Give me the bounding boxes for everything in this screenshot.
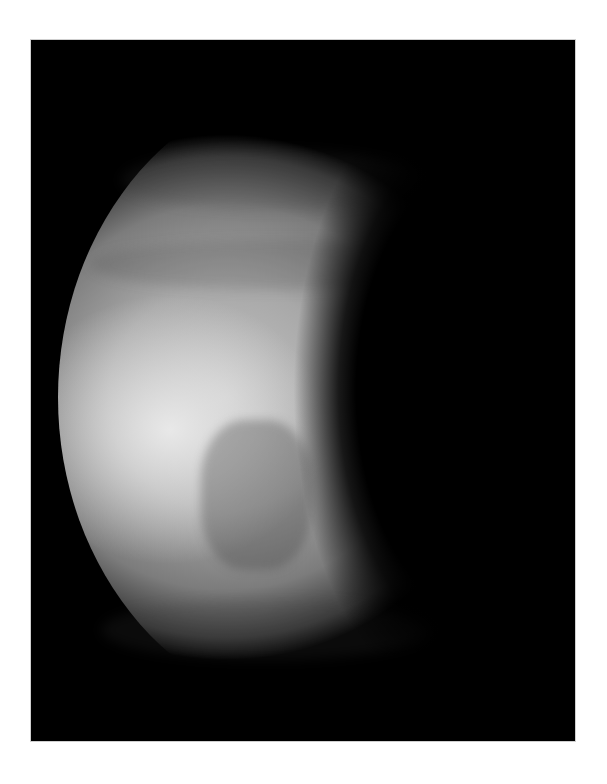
terminator-shadow [171,40,575,741]
image-frame [31,40,575,741]
